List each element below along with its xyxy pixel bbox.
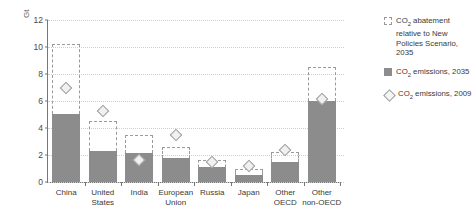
diamond-icon (383, 89, 396, 102)
dashed-box-icon (384, 17, 392, 25)
emissions-2035-bar (271, 162, 299, 182)
x-axis-tick-mark (158, 182, 159, 186)
x-axis-tick-mark (304, 182, 305, 186)
abatement-dashed-bar (52, 44, 80, 114)
x-axis-tick-mark (121, 182, 122, 186)
legend-item-label: CO2 emissions, 2035 (396, 67, 469, 80)
legend-item[interactable]: CO2 emissions, 2035 (384, 67, 476, 80)
emissions-2035-bar (308, 101, 336, 182)
bar-group[interactable] (194, 20, 231, 182)
y-axis-tick-label: 2 (38, 150, 43, 160)
x-axis-tick-mark (231, 182, 232, 186)
x-axis-category-label: Other non-OECD (295, 188, 349, 207)
y-axis-tick-label: 0 (38, 177, 43, 187)
solid-box-icon (384, 68, 392, 76)
y-axis-tick-label: 12 (34, 15, 43, 25)
emissions-2009-marker (96, 105, 109, 118)
y-axis-unit-label: Gt (22, 10, 31, 18)
legend-item-label: CO2 emissions, 2009 (398, 89, 471, 102)
y-axis-tick-label: 4 (38, 123, 43, 133)
emissions-2035-bar (198, 167, 226, 182)
bar-group[interactable] (48, 20, 85, 182)
y-axis-tick-label: 8 (38, 69, 43, 79)
bar-group[interactable] (304, 20, 341, 182)
gridline (48, 182, 344, 183)
legend-item-label: CO2 abatement relative to New Policies S… (396, 16, 476, 58)
emissions-2035-bar (162, 158, 190, 182)
bar-group[interactable] (85, 20, 122, 182)
bar-group[interactable] (267, 20, 304, 182)
chart-figure: Gt 024681012ChinaUnited StatesIndiaEurop… (0, 0, 476, 224)
emissions-2009-marker (169, 128, 182, 141)
abatement-dashed-bar (89, 121, 117, 151)
emissions-2035-bar (52, 114, 80, 182)
legend-item[interactable]: CO2 emissions, 2009 (384, 89, 476, 102)
plot-area: 024681012ChinaUnited StatesIndiaEuropean… (47, 20, 340, 183)
chart-legend: CO2 abatement relative to New Policies S… (384, 16, 476, 111)
emissions-2035-bar (235, 175, 263, 182)
bar-group[interactable] (231, 20, 268, 182)
emissions-2035-bar (89, 151, 117, 182)
abatement-dashed-bar (162, 147, 190, 158)
abatement-dashed-bar (125, 135, 153, 153)
y-axis-tick-label: 6 (38, 96, 43, 106)
bar-group[interactable] (121, 20, 158, 182)
y-axis-tick-label: 10 (34, 42, 43, 52)
legend-item[interactable]: CO2 abatement relative to New Policies S… (384, 16, 476, 58)
x-axis-tick-mark (85, 182, 86, 186)
x-axis-tick-mark (340, 182, 341, 186)
x-axis-tick-mark (267, 182, 268, 186)
bar-group[interactable] (158, 20, 195, 182)
x-axis-tick-mark (194, 182, 195, 186)
